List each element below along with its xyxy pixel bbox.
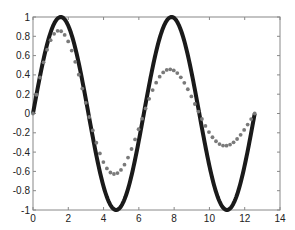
y-tick-label: 0.6 xyxy=(16,50,30,61)
marker xyxy=(123,163,127,167)
marker xyxy=(116,171,120,175)
y-tick-label: 0.8 xyxy=(16,31,30,42)
marker xyxy=(165,68,169,72)
marker xyxy=(35,93,39,97)
marker xyxy=(253,112,257,116)
marker xyxy=(87,115,91,119)
line-chart: 02468101214 -1-0.8-0.6-0.4-0.200.20.40.6… xyxy=(0,0,295,230)
x-tick-label: 12 xyxy=(239,213,251,224)
marker xyxy=(221,144,225,148)
y-tick-label: -0.4 xyxy=(13,147,31,158)
marker xyxy=(161,71,165,75)
marker xyxy=(70,49,74,53)
marker xyxy=(204,124,208,128)
marker xyxy=(144,107,148,111)
marker xyxy=(42,60,46,64)
marker xyxy=(109,171,113,175)
marker xyxy=(235,137,239,141)
x-tick-label: 0 xyxy=(30,213,36,224)
x-tick-label: 4 xyxy=(101,213,107,224)
marker xyxy=(196,110,200,114)
marker xyxy=(119,168,123,172)
marker xyxy=(130,147,134,151)
marker xyxy=(218,142,222,146)
marker xyxy=(172,68,176,72)
marker xyxy=(147,97,151,101)
marker xyxy=(242,128,246,132)
marker xyxy=(91,129,95,133)
marker xyxy=(225,144,229,148)
y-axis-tick-labels: -1-0.8-0.6-0.4-0.200.20.40.60.81 xyxy=(13,12,31,216)
marker xyxy=(228,143,232,147)
marker xyxy=(239,133,243,137)
marker xyxy=(137,127,141,131)
marker xyxy=(246,123,250,127)
marker xyxy=(193,102,197,106)
marker xyxy=(140,117,144,121)
marker xyxy=(56,29,60,33)
marker xyxy=(214,139,218,143)
marker xyxy=(49,38,53,42)
marker xyxy=(168,67,172,71)
y-tick-label: 0.4 xyxy=(16,69,30,80)
marker xyxy=(211,135,215,139)
marker xyxy=(151,88,155,92)
marker xyxy=(112,172,116,176)
marker xyxy=(179,75,183,79)
marker xyxy=(38,76,42,80)
y-tick-label: 0 xyxy=(24,108,30,119)
x-tick-label: 8 xyxy=(171,213,177,224)
marker xyxy=(207,130,211,134)
marker xyxy=(31,112,35,116)
marker xyxy=(154,81,158,85)
marker xyxy=(232,140,236,144)
marker xyxy=(98,151,102,155)
y-tick-label: -0.6 xyxy=(13,166,31,177)
marker xyxy=(66,40,70,44)
marker xyxy=(189,95,193,99)
x-tick-label: 10 xyxy=(204,213,216,224)
marker xyxy=(249,117,253,121)
y-tick-label: -0.8 xyxy=(13,185,31,196)
marker xyxy=(63,33,67,37)
marker xyxy=(77,73,81,77)
marker xyxy=(101,160,105,164)
marker xyxy=(105,167,109,171)
marker xyxy=(158,75,162,79)
marker xyxy=(126,156,130,160)
marker xyxy=(52,32,56,36)
marker xyxy=(200,117,204,121)
marker xyxy=(59,29,63,33)
marker xyxy=(80,87,84,91)
y-tick-label: 0.2 xyxy=(16,89,30,100)
y-tick-label: 1 xyxy=(24,12,30,23)
x-tick-label: 6 xyxy=(136,213,142,224)
x-axis-tick-labels: 02468101214 xyxy=(30,213,286,224)
marker xyxy=(84,101,88,105)
y-tick-label: -1 xyxy=(21,205,30,216)
marker xyxy=(175,71,179,75)
marker xyxy=(133,137,137,141)
y-tick-label: -0.2 xyxy=(13,127,31,138)
marker xyxy=(94,141,98,145)
marker xyxy=(73,60,77,64)
marker xyxy=(182,81,186,85)
marker xyxy=(186,87,190,91)
x-tick-label: 2 xyxy=(66,213,72,224)
x-tick-label: 14 xyxy=(274,213,286,224)
marker xyxy=(45,48,49,52)
